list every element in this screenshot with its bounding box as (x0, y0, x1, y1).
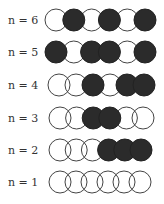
filled-circle (82, 74, 104, 96)
filled-circle (130, 139, 152, 161)
diagram-rows: n = 6n = 5n = 4n = 3n = 2n = 1 (8, 9, 156, 193)
open-circle (132, 107, 154, 129)
filled-circle (134, 9, 156, 31)
diagram-row: n = 4 (8, 74, 155, 96)
filled-circle (45, 41, 67, 63)
row-label: n = 4 (8, 79, 38, 92)
filled-circle (133, 74, 155, 96)
diagram-row: n = 3 (8, 107, 154, 129)
filled-circle (98, 9, 120, 31)
open-circle (129, 171, 151, 193)
row-label: n = 3 (8, 112, 38, 125)
diagram-row: n = 2 (8, 139, 152, 161)
diagram-row: n = 6 (8, 9, 156, 31)
diagram-row: n = 5 (8, 41, 156, 63)
filled-circle (99, 107, 121, 129)
row-label: n = 1 (8, 176, 38, 189)
occupancy-diagram: n = 6n = 5n = 4n = 3n = 2n = 1 (0, 0, 164, 204)
row-label: n = 6 (8, 14, 38, 27)
open-circle (49, 107, 71, 129)
row-label: n = 2 (8, 144, 38, 157)
filled-circle (63, 9, 85, 31)
filled-circle (134, 41, 156, 63)
open-circle (48, 74, 70, 96)
filled-circle (98, 41, 120, 63)
row-label: n = 5 (8, 46, 38, 59)
diagram-row: n = 1 (8, 171, 151, 193)
